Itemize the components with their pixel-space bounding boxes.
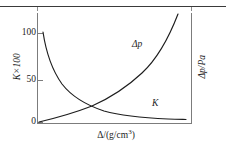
curve-k [43, 32, 186, 120]
figure-container: 100 50 0 K×100 Δp/Pa Δ/(g/cm3) Δp K [0, 0, 226, 151]
y-tick-label-100: 100 [19, 28, 36, 38]
x-axis-label-suffix: ) [132, 130, 135, 140]
x-axis-label-prefix: Δ/(g/cm [97, 130, 128, 140]
y-tick-label-0: 0 [19, 117, 36, 127]
series-annotation-dp: Δp [132, 40, 142, 50]
y-axis-label-right: Δp/Pa [198, 39, 208, 95]
y-axis-label-left: K×100 [13, 39, 23, 95]
series-annotation-k: K [152, 99, 158, 109]
x-axis-label: Δ/(g/cm3) [70, 129, 162, 141]
